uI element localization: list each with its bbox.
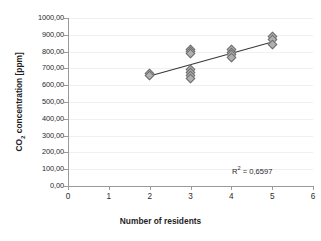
plot-area xyxy=(68,18,313,186)
x-axis-tick-label: 0 xyxy=(58,192,78,201)
y-axis-tick xyxy=(64,102,68,103)
x-axis-tick xyxy=(231,186,232,190)
y-axis-tick xyxy=(64,85,68,86)
x-axis-tick-label: 3 xyxy=(181,192,201,201)
chart-container: 0,00100,00200,00300,00400,00500,00600,00… xyxy=(0,0,321,241)
x-axis-tick xyxy=(313,186,314,190)
y-axis-tick xyxy=(64,169,68,170)
y-axis-tick xyxy=(64,136,68,137)
x-axis-tick xyxy=(150,186,151,190)
y-axis-line xyxy=(68,18,69,187)
x-axis-tick-label: 4 xyxy=(221,192,241,201)
x-axis-tick xyxy=(191,186,192,190)
y-axis-title-main: CO xyxy=(14,139,24,152)
y-axis-tick xyxy=(64,68,68,69)
x-axis-tick-label: 1 xyxy=(99,192,119,201)
y-axis-tick xyxy=(64,152,68,153)
x-axis-title: Number of residents xyxy=(0,216,321,226)
y-axis-title-subscript: 2 xyxy=(19,135,26,138)
x-axis-tick-label: 5 xyxy=(262,192,282,201)
r-squared-annotation: R2 = 0,6597 xyxy=(232,165,273,176)
x-axis-tick-label: 2 xyxy=(140,192,160,201)
y-axis-tick xyxy=(64,18,68,19)
y-axis-title: CO2 concentration [ppm] xyxy=(14,12,26,192)
x-axis-tick xyxy=(272,186,273,190)
r-squared-value: = 0,6597 xyxy=(241,167,273,176)
x-axis-tick-label: 6 xyxy=(303,192,321,201)
y-axis-title-rest: concentration [ppm] xyxy=(14,52,24,135)
y-axis-tick xyxy=(64,52,68,53)
y-axis-tick xyxy=(64,119,68,120)
x-axis-tick xyxy=(68,186,69,190)
y-axis-tick xyxy=(64,35,68,36)
x-axis-tick xyxy=(109,186,110,190)
